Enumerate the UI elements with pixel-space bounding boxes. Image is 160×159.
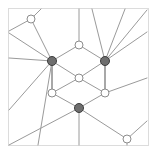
graph-node-left-lower-open[interactable]: [48, 89, 56, 97]
radiating-edge: [105, 10, 147, 61]
radiating-edge: [92, 9, 105, 61]
graph-edge: [79, 78, 105, 93]
graph-figure: [0, 0, 160, 159]
radiating-edge: [105, 9, 125, 61]
radiating-edge: [105, 32, 147, 61]
graph-node-lower-right-open[interactable]: [123, 135, 131, 143]
graph-canvas: [0, 0, 160, 159]
graph-node-upper-left-open[interactable]: [27, 15, 35, 23]
radiating-edge: [9, 58, 52, 61]
graph-node-right-filled[interactable]: [101, 57, 110, 66]
graph-node-left-filled[interactable]: [48, 57, 57, 66]
graph-edge: [52, 78, 79, 93]
radiating-edge: [38, 61, 52, 145]
graph-edge: [79, 108, 127, 139]
radiating-edge: [9, 108, 79, 145]
graph-node-top-open[interactable]: [75, 41, 83, 49]
graph-node-right-lower-open[interactable]: [101, 89, 109, 97]
graph-node-bottom-filled[interactable]: [75, 104, 84, 113]
graph-node-center-open[interactable]: [75, 74, 83, 82]
radiating-edge: [105, 78, 147, 93]
